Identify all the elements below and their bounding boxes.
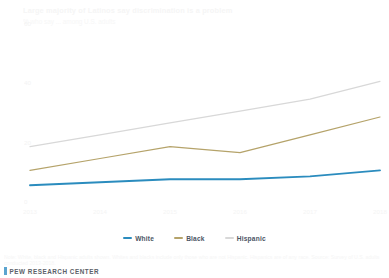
source-bar: PEW RESEARCH CENTER [4, 266, 99, 276]
plot-area: 6040200 [30, 28, 380, 206]
y-axis-tick-label: 20 [24, 139, 31, 146]
legend-label: Black [186, 235, 205, 242]
chart-subtitle: % who say ... among U.S. adults [23, 18, 373, 26]
page-title: Large majority of Latinos say discrimina… [23, 6, 373, 15]
legend-label: White [135, 235, 154, 242]
x-axis-tick-label: 2015 [158, 208, 182, 215]
legend-entry-black[interactable]: Black [174, 235, 205, 242]
legend-entry-hispanic[interactable]: Hispanic [225, 235, 266, 242]
y-axis-tick-label: 40 [24, 79, 31, 86]
series-line-black [30, 117, 380, 170]
series-group [30, 81, 380, 185]
chart-figure: Large majority of Latinos say discrimina… [0, 0, 389, 278]
y-axis-tick-label: 60 [24, 20, 31, 27]
chart-legend: WhiteBlackHispanic [0, 231, 389, 245]
line-chart-svg [30, 28, 380, 206]
source-rule-icon [4, 267, 7, 275]
chart-note: Note: White, black and Hispanic adults s… [4, 254, 384, 266]
legend-label: Hispanic [237, 235, 266, 242]
series-line-hispanic [30, 81, 380, 146]
x-axis-tick-label: 2018 [368, 208, 389, 215]
legend-swatch-icon [225, 237, 234, 239]
x-axis-tick-labels: 201320142015201620172018 [30, 208, 382, 220]
x-axis-tick-label: 2014 [88, 208, 112, 215]
series-line-white [30, 170, 380, 185]
x-axis-tick-label: 2013 [18, 208, 42, 215]
y-axis-tick-label: 0 [24, 198, 27, 205]
title-block: Large majority of Latinos say discrimina… [23, 6, 373, 26]
source-label: PEW RESEARCH CENTER [10, 268, 100, 275]
x-axis-tick-label: 2017 [298, 208, 322, 215]
legend-entry-white[interactable]: White [123, 235, 154, 242]
legend-swatch-icon [174, 237, 183, 239]
x-axis-tick-label: 2016 [228, 208, 252, 215]
legend-swatch-icon [123, 237, 132, 239]
